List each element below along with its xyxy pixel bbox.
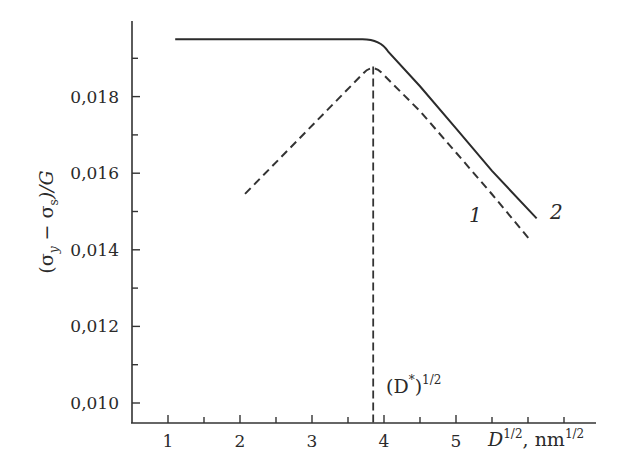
dstar-annotation: (D*)1/2 [386,373,441,397]
curve-2-label: 2 [549,200,563,224]
curve-2-line [175,39,536,218]
y-tick-label: 0,012 [70,316,119,336]
y-tick-label: 0,014 [70,240,119,260]
x-tick-label: 4 [379,431,390,451]
x-tick-label: 1 [163,431,174,451]
y-tick-label: 0,010 [70,393,119,413]
x-tick-label: 2 [235,431,246,451]
chart: 12345 0,0100,0120,0140,0160,018 1 2 (D*)… [0,0,634,476]
y-tick-label: 0,016 [70,163,119,183]
y-axis-title: (σy − σs)/G [35,170,61,273]
y-tick-label: 0,018 [70,87,119,107]
x-tick-label: 3 [307,431,318,451]
curve-1-line [245,68,531,241]
y-ticks: 0,0100,0120,0140,0160,018 [70,58,140,413]
curve-1-label: 1 [469,203,482,227]
x-tick-label: 5 [451,431,462,451]
x-axis-title: D1/2, nm1/2 [487,427,584,450]
